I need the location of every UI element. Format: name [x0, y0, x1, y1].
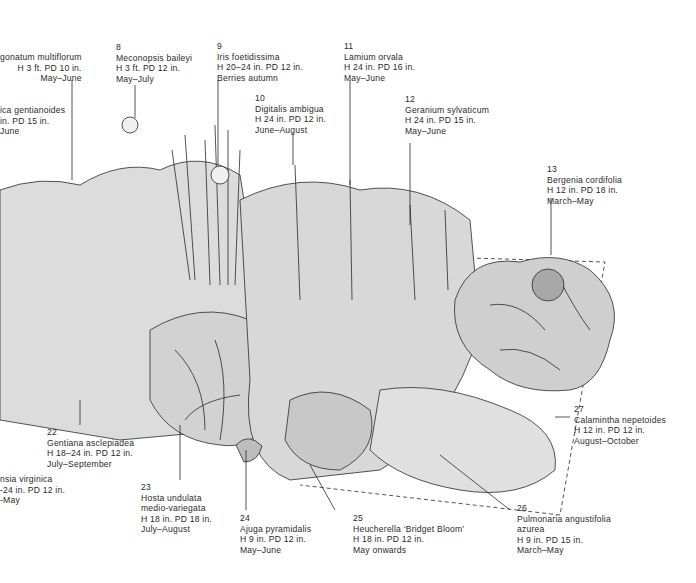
plant-season: Berries autumn	[217, 73, 303, 84]
plant-size: H 9 in. PD 15 in.	[517, 535, 611, 546]
plant-name: Pulmonaria angustifolia	[517, 514, 611, 525]
plant-season: -May	[0, 495, 65, 506]
plant-label-13: 13 Bergenia cordifolia H 12 in. PD 18 in…	[547, 164, 622, 206]
plant-number: 9	[217, 41, 303, 52]
plant-season: May–June	[405, 126, 489, 137]
plant-label-26: 26 Pulmonaria angustifolia azurea H 9 in…	[517, 503, 611, 556]
plant-size: H 3 ft. PD 10 in.	[0, 63, 82, 74]
plant-name: gonatum multiflorum	[0, 52, 82, 63]
plant-number: 12	[405, 94, 489, 105]
plant-label-gentianoides: ica gentianoides in. PD 15 in. June	[0, 105, 65, 137]
plant-season: May–June	[240, 545, 311, 556]
plant-label-25: 25 Heucherella ‘Bridget Bloom’ H 18 in. …	[353, 513, 464, 555]
plant-name: Digitalis ambigua	[255, 104, 326, 115]
plant-name: Lamium orvala	[344, 52, 415, 63]
plant-size: H 24 in. PD 15 in.	[405, 115, 489, 126]
plant-size: H 18–24 in. PD 12 in.	[47, 448, 134, 459]
plant-size: H 12 in. PD 18 in.	[547, 185, 622, 196]
plant-season: August–October	[574, 436, 666, 447]
plant-season: June	[0, 126, 65, 137]
plant-number: 10	[255, 93, 326, 104]
plant-number: 8	[116, 42, 192, 53]
plant-label-24: 24 Ajuga pyramidalis H 9 in. PD 12 in. M…	[240, 513, 311, 555]
plant-label-8: 8 Meconopsis baileyi H 3 ft. PD 12 in. M…	[116, 42, 192, 84]
plant-size: H 9 in. PD 12 in.	[240, 534, 311, 545]
plant-season: June–August	[255, 125, 326, 136]
plant-season: May–June	[0, 73, 82, 84]
plant-name: Ajuga pyramidalis	[240, 524, 311, 535]
plant-number: 27	[574, 404, 666, 415]
plant-name: Geranium sylvaticum	[405, 105, 489, 116]
plant-label-9: 9 Iris foetidissima H 20–24 in. PD 12 in…	[217, 41, 303, 83]
plant-name: Bergenia cordifolia	[547, 175, 622, 186]
plant-size: in. PD 15 in.	[0, 116, 65, 127]
plant-name: Calamintha nepetoides	[574, 415, 666, 426]
plant-label-polygonatum: gonatum multiflorum H 3 ft. PD 10 in. Ma…	[0, 52, 82, 84]
plant-label-11: 11 Lamium orvala H 24 in. PD 16 in. May–…	[344, 41, 415, 83]
plant-name: ica gentianoides	[0, 105, 65, 116]
plant-season: July–September	[47, 459, 134, 470]
plant-label-virginica: nsia virginica -24 in. PD 12 in. -May	[0, 474, 65, 506]
plant-name: Hosta undulata	[141, 493, 212, 504]
plant-label-10: 10 Digitalis ambigua H 24 in. PD 12 in. …	[255, 93, 326, 135]
plant-number: 22	[47, 427, 134, 438]
plant-season: March–May	[547, 196, 622, 207]
plant-label-22: 22 Gentiana asclepiadea H 18–24 in. PD 1…	[47, 427, 134, 469]
plant-season: May onwards	[353, 545, 464, 556]
plant-name: Gentiana asclepiadea	[47, 438, 134, 449]
plant-number: 11	[344, 41, 415, 52]
plant-name: Meconopsis baileyi	[116, 53, 192, 64]
plant-name: nsia virginica	[0, 474, 65, 485]
plant-size: H 24 in. PD 16 in.	[344, 62, 415, 73]
plant-name-variety: azurea	[517, 524, 611, 535]
plant-season: July–August	[141, 524, 212, 535]
plant-label-12: 12 Geranium sylvaticum H 24 in. PD 15 in…	[405, 94, 489, 136]
plant-label-23: 23 Hosta undulata medio-variegata H 18 i…	[141, 482, 212, 535]
plant-number: 23	[141, 482, 212, 493]
plant-name: Iris foetidissima	[217, 52, 303, 63]
plant-number: 13	[547, 164, 622, 175]
plant-season: March–May	[517, 545, 611, 556]
plant-label-27: 27 Calamintha nepetoides H 12 in. PD 12 …	[574, 404, 666, 446]
plant-name: Heucherella ‘Bridget Bloom’	[353, 524, 464, 535]
plant-number: 25	[353, 513, 464, 524]
plant-size: H 24 in. PD 12 in.	[255, 114, 326, 125]
plant-number: 24	[240, 513, 311, 524]
plant-size: H 12 in. PD 12 in.	[574, 425, 666, 436]
plant-season: May–June	[344, 73, 415, 84]
plant-size: H 18 in. PD 18 in.	[141, 514, 212, 525]
plant-name-cultivar: medio-variegata	[141, 503, 212, 514]
plant-season: May–July	[116, 74, 192, 85]
plant-size: H 18 in. PD 12 in.	[353, 534, 464, 545]
plant-size: H 20–24 in. PD 12 in.	[217, 62, 303, 73]
planting-illustration	[0, 0, 696, 583]
plant-number: 26	[517, 503, 611, 514]
plant-size: H 3 ft. PD 12 in.	[116, 63, 192, 74]
plant-size: -24 in. PD 12 in.	[0, 485, 65, 496]
